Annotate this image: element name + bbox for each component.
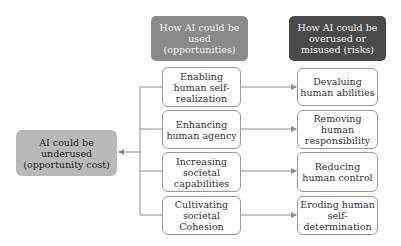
risk-label: Removing human responsibility xyxy=(298,113,377,146)
risk-box: Devaluing human abilities xyxy=(297,68,378,106)
opportunity-box: Cultivating societal Cohesion xyxy=(162,196,241,235)
risk-label: Eroding human self-determination xyxy=(298,199,377,232)
underuse-label: AI could be underused (opportunity cost) xyxy=(16,137,117,170)
opportunity-label: Enabling human self-realization xyxy=(163,71,240,104)
header-opportunities-label: How AI could be used (opportunities) xyxy=(151,22,248,55)
header-risks: How AI could be overused or misused (ris… xyxy=(289,16,386,61)
header-risks-label: How AI could be overused or misused (ris… xyxy=(289,22,386,55)
risk-box: Reducing human control xyxy=(297,152,378,192)
risk-label: Reducing human control xyxy=(298,161,377,183)
opportunity-label: Increasing societal capabilities xyxy=(163,156,240,189)
risk-box: Removing human responsibility xyxy=(297,110,378,149)
opportunity-label: Enhancing human agency xyxy=(163,119,240,141)
header-opportunities: How AI could be used (opportunities) xyxy=(151,16,248,61)
opportunity-box: Enhancing human agency xyxy=(162,110,241,149)
opportunity-box: Enabling human self-realization xyxy=(162,67,241,107)
opportunity-label: Cultivating societal Cohesion xyxy=(163,199,240,232)
risk-box: Eroding human self-determination xyxy=(297,196,378,235)
opportunity-box: Increasing societal capabilities xyxy=(162,152,241,192)
underuse-box: AI could be underused (opportunity cost) xyxy=(16,130,117,176)
risk-label: Devaluing human abilities xyxy=(298,76,377,98)
